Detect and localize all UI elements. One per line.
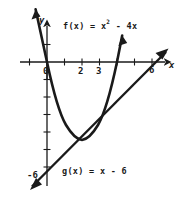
function-f-label-exponent: 2 xyxy=(106,18,110,25)
x-tick-label-2: 2 xyxy=(78,67,83,76)
x-axis-label: x xyxy=(169,61,174,70)
y-tick-label-negative-6: -6 xyxy=(27,171,38,180)
function-f-label-prefix: f(x) = x xyxy=(63,21,106,31)
function-g-label: g(x) = x - 6 xyxy=(62,167,127,176)
function-f-label-suffix: - 4x xyxy=(110,21,137,31)
graph-figure: y x 0 2 3 6 -6 f(x) = x2 - 4x g(x) = x -… xyxy=(0,0,184,204)
x-tick-label-0: 0 xyxy=(43,67,48,76)
x-axis xyxy=(20,59,165,66)
x-tick-label-6: 6 xyxy=(149,66,154,75)
parabola-right-arrow xyxy=(118,36,127,47)
line-upper-right-arrow xyxy=(156,49,169,60)
x-tick-label-3: 3 xyxy=(96,67,101,76)
y-axis-label: y xyxy=(39,16,44,25)
function-f-label: f(x) = x2 - 4x xyxy=(63,20,137,30)
